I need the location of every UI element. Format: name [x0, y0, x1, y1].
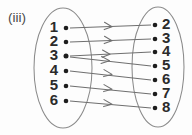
node-right-7-dot — [153, 92, 158, 97]
node-right-2-dot — [153, 23, 158, 28]
node-right-8-label: 8 — [162, 98, 170, 115]
right-set-nodes: 2 3 4 5 6 7 8 — [153, 15, 171, 115]
node-left-6-dot — [64, 99, 69, 104]
arrow-2-to-3 — [70, 36, 151, 43]
figure-label: (iii) — [8, 10, 26, 25]
node-left-5-dot — [64, 84, 69, 89]
left-set-oval — [34, 8, 92, 128]
arrow-3-to-5 — [70, 56, 151, 66]
arrow-6-to-8 — [70, 100, 151, 108]
node-left-6-label: 6 — [50, 91, 58, 108]
arrow-5-to-7 — [70, 85, 151, 94]
node-right-3-dot — [153, 37, 158, 42]
node-right-6-dot — [153, 78, 158, 83]
arrow-group — [70, 22, 151, 108]
node-right-8: 8 — [153, 98, 171, 115]
node-left-4-dot — [64, 69, 69, 74]
mapping-diagram-figure: (iii) — [0, 0, 192, 135]
arrow-4-to-6 — [70, 70, 151, 80]
left-set-nodes: 1 2 3 4 5 6 — [50, 18, 69, 108]
node-left-1-dot — [64, 26, 69, 31]
node-right-8-dot — [153, 106, 158, 111]
node-right-4-dot — [153, 50, 158, 55]
node-left-2-dot — [64, 40, 69, 45]
arrow-3-to-4 — [70, 50, 151, 57]
node-left-3-dot — [64, 54, 69, 59]
diagram-canvas: (iii) — [0, 0, 192, 135]
node-left-6: 6 — [50, 91, 69, 108]
node-right-5-dot — [153, 64, 158, 69]
